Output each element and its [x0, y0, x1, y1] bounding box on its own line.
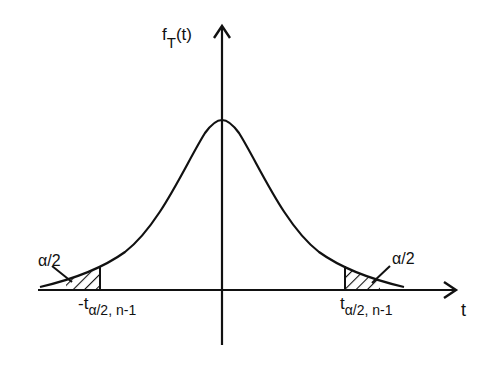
right-critical-value-label: tα/2, n-1: [340, 294, 393, 318]
left-critical-value-label: -tα/2, n-1: [78, 294, 136, 318]
x-axis-label: t: [461, 300, 466, 320]
t-distribution-diagram: fT(t) t α/2 α/2 -tα/2, n-1 tα/2, n-1: [0, 0, 487, 367]
right-tail-label: α/2: [392, 250, 415, 267]
left-tail-label: α/2: [38, 252, 61, 269]
left-rejection-region: [60, 260, 105, 292]
y-axis-label: fT(t): [162, 25, 192, 51]
y-axis: [214, 26, 230, 345]
